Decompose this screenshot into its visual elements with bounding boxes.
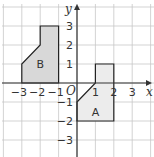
y-tick-label: 1 [66,58,73,71]
y-tick-label: −2 [57,115,73,128]
shape-label-b: B [36,58,44,71]
polygon-b [22,26,59,83]
y-tick-label: 2 [66,39,73,52]
x-tick-label: −3 [11,86,27,99]
coordinate-plane: BA −3−2−1123321−1−2−3Oxy [0,0,154,157]
y-axis-label: y [64,2,72,16]
y-tick-label: −3 [57,134,73,147]
x-tick-label: 2 [110,86,117,99]
shape-label-a: A [92,106,100,119]
y-tick-label: 3 [66,20,73,33]
x-tick-label: 3 [129,86,136,99]
x-tick-label: −2 [29,86,45,99]
origin-label: O [66,84,76,98]
x-axis-label: x [146,85,153,99]
x-tick-label: 1 [92,86,99,99]
